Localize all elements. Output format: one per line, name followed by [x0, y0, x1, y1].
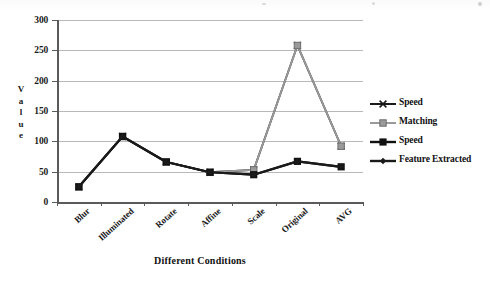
x-axis-tick [319, 202, 320, 206]
chart-legend: SpeedMatchingSpeedFeature Extracted [370, 92, 488, 168]
x-axis-category-label: Scale [245, 206, 266, 226]
y-axis-tick-label: 200 [34, 76, 48, 86]
legend-item-label: Feature Extracted [399, 154, 471, 164]
x-axis-title: Different Conditions [0, 255, 400, 266]
x-axis-tick [57, 202, 58, 206]
x-axis-category-label: Affine [199, 206, 223, 229]
legend-item-label: Matching [399, 116, 437, 126]
legend-item-3[interactable]: Speed [370, 130, 488, 149]
data-point-marker [380, 157, 386, 163]
legend-item-label: Speed [399, 97, 423, 107]
series-2 [76, 42, 345, 190]
y-axis-title: Value [14, 84, 28, 142]
series-lines [57, 20, 363, 202]
plot-area: 050100150200250300 [57, 20, 363, 202]
x-axis-category-label: Rotate [154, 206, 179, 230]
x-axis-category-label: AVG [333, 206, 353, 226]
scan-artifact-strip [0, 0, 490, 12]
legend-marker-icon [370, 96, 396, 108]
y-axis-title-letter: l [14, 107, 28, 119]
y-axis-tick-label: 50 [39, 167, 48, 177]
y-axis-title-letter: V [14, 84, 28, 96]
legend-item-1[interactable]: Speed [370, 92, 488, 111]
data-point-marker [380, 119, 386, 125]
legend-marker-icon [370, 134, 396, 146]
y-axis-tick-label: 300 [34, 15, 48, 25]
legend-marker-icon [370, 153, 396, 165]
y-axis-title-letter: a [14, 96, 28, 108]
legend-item-4[interactable]: Feature Extracted [370, 149, 488, 168]
x-axis-tick [144, 202, 145, 206]
x-axis-tick [101, 202, 102, 206]
series-line [79, 45, 341, 186]
x-axis-tick [188, 202, 189, 206]
x-axis-category-label: Blur [72, 206, 91, 225]
x-axis-tick [232, 202, 233, 206]
x-axis-tick [276, 202, 277, 206]
series-4 [76, 133, 345, 190]
line-chart: Value 050100150200250300 BlurIlluminated… [0, 0, 490, 282]
legend-marker-icon [370, 115, 396, 127]
series-line [79, 136, 341, 186]
y-axis-title-letter: e [14, 130, 28, 142]
series-line [79, 45, 341, 186]
x-axis-line [57, 202, 363, 204]
series-1 [75, 42, 344, 190]
data-point-marker [379, 138, 386, 145]
y-axis-tick-label: 250 [34, 45, 48, 55]
y-axis-tick-label: 100 [34, 136, 48, 146]
x-axis-category-label: Original [280, 206, 310, 235]
x-axis-category-label: Illuminated [96, 206, 135, 243]
y-axis-title-letter: u [14, 119, 28, 131]
legend-item-label: Speed [399, 135, 423, 145]
legend-item-2[interactable]: Matching [370, 111, 488, 130]
data-point-marker [294, 42, 300, 48]
x-axis-tick [363, 202, 364, 206]
y-axis-tick-label: 0 [43, 197, 48, 207]
y-axis-tick-label: 150 [34, 106, 48, 116]
data-point-marker [338, 143, 344, 149]
